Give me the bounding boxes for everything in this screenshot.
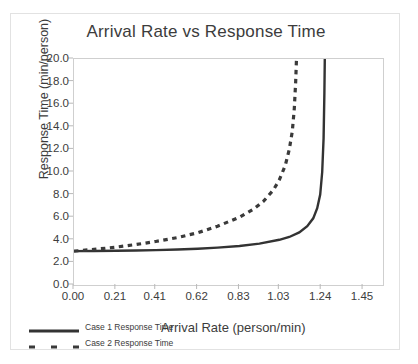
legend-item-case-2[interactable]: Case 2 Response Time	[27, 335, 257, 351]
x-tick-label: 1.24	[309, 290, 331, 302]
y-tick-label: 6.0	[53, 210, 69, 222]
legend-swatch-dashed-icon	[27, 338, 81, 348]
x-tick-label: 0.83	[227, 290, 249, 302]
y-tick-label: 4.0	[53, 233, 69, 245]
x-axis-tick-labels: 0.000.210.410.620.831.031.241.45	[11, 290, 401, 308]
x-tick-label: 0.21	[104, 290, 126, 302]
chart-figure: Arrival Rate vs Response Time 0.02.04.06…	[10, 13, 400, 350]
chart-legend: Case 1 Response Time Case 2 Response Tim…	[27, 319, 257, 351]
y-tick-label: 8.0	[53, 188, 69, 200]
x-tick-label: 1.03	[267, 290, 289, 302]
series-line-1	[74, 59, 325, 251]
y-tick-label: 0.0	[53, 278, 69, 290]
plot-area	[73, 58, 384, 286]
legend-item-case-1[interactable]: Case 1 Response Time	[27, 319, 257, 335]
series-layer	[74, 59, 325, 251]
legend-label-case-2: Case 2 Response Time	[85, 338, 173, 348]
x-tick-label: 1.45	[351, 290, 373, 302]
x-tick-label: 0.41	[144, 290, 166, 302]
x-tick-label: 0.62	[185, 290, 207, 302]
legend-swatch-solid-icon	[27, 322, 81, 332]
y-axis-title: Response Time (min/person)	[37, 0, 51, 204]
y-tick-label: 2.0	[53, 255, 69, 267]
series-line-2	[74, 59, 296, 251]
x-tick-label: 0.00	[62, 290, 84, 302]
legend-label-case-1: Case 1 Response Time	[85, 322, 173, 332]
plot-svg	[74, 59, 383, 285]
chart-title: Arrival Rate vs Response Time	[11, 22, 401, 42]
